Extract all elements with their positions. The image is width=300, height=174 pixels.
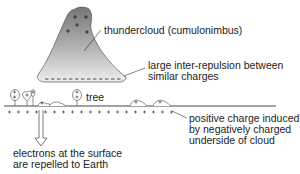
thundercloud xyxy=(37,7,126,82)
tree-icon xyxy=(11,90,20,101)
thundercloud-label: thundercloud (cumulonimbus) xyxy=(104,25,242,37)
down-arrow-icon xyxy=(35,110,47,146)
repulsion-label-pointer xyxy=(124,68,145,76)
ground-positive-charges xyxy=(8,111,173,114)
induced-charge-label-line3: underside of cloud xyxy=(189,135,275,147)
induced-label-pointer xyxy=(172,111,187,118)
tree-label: tree xyxy=(86,92,104,104)
electrons-label-line2: are repelled to Earth xyxy=(13,159,108,171)
repulsion-label-line2: similar charges xyxy=(148,71,219,83)
